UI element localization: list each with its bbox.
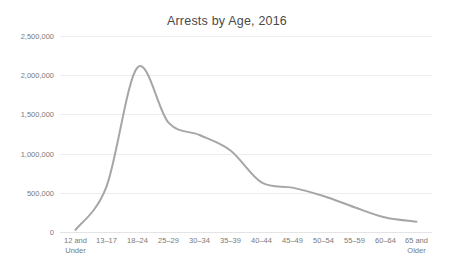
y-axis: 0500,0001,000,0001,500,0002,000,0002,500… — [0, 36, 54, 232]
y-axis-tick-label: 2,000,000 — [0, 71, 54, 80]
y-axis-tick-label: 0 — [0, 228, 54, 237]
y-axis-tick-label: 2,500,000 — [0, 32, 54, 41]
x-axis: 12 and Under13–1718–2425–2930–3435–3940–… — [60, 236, 432, 270]
x-axis-tick-label: 65 and Older — [394, 236, 440, 256]
chart-title: Arrests by Age, 2016 — [0, 14, 454, 28]
y-axis-tick-label: 500,000 — [0, 188, 54, 197]
line-series — [60, 36, 432, 232]
plot-area — [60, 36, 432, 232]
y-axis-tick-label: 1,500,000 — [0, 110, 54, 119]
arrests-by-age-chart: Arrests by Age, 2016 0500,0001,000,0001,… — [0, 0, 454, 273]
arrests-line-path — [76, 66, 417, 230]
gridline — [60, 232, 432, 233]
y-axis-tick-label: 1,000,000 — [0, 149, 54, 158]
